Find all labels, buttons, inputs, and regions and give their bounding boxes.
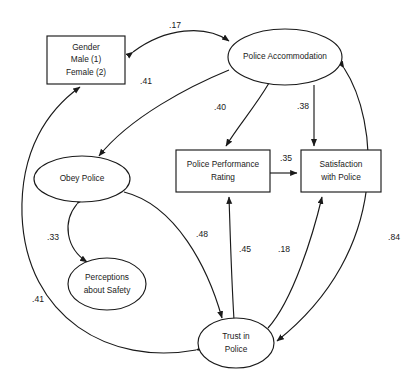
edge-accommodation-gender: [133, 31, 229, 52]
node-satisfaction-with-police[interactable]: Satisfaction with Police: [301, 150, 381, 192]
edge-accommodation-trust: [277, 68, 368, 341]
coefficient-accommodation-performance: .40: [214, 102, 226, 112]
node-obey-police-label: Obey Police: [60, 173, 105, 183]
coefficient-obey-perceptions: .33: [47, 232, 59, 242]
node-obey-police[interactable]: Obey Police: [34, 156, 130, 202]
node-gender-line-2: Female (2): [66, 67, 106, 77]
node-trust-in-police[interactable]: Trust in Police: [198, 318, 274, 368]
coefficient-accommodation-obey: .41: [140, 76, 152, 86]
coefficient-trust-gender: .41: [32, 294, 44, 304]
node-satisfaction-with-police-line-1: with Police: [320, 172, 361, 182]
edge-trust-satisfaction: [268, 197, 322, 328]
node-perceptions-about-safety-line-1: about Safety: [84, 285, 131, 295]
node-perceptions-about-safety-line-0: Perceptions: [85, 272, 129, 282]
node-trust-in-police-line-0: Trust in: [222, 331, 250, 341]
path-diagram: Gender Male (1) Female (2) Police Accomm…: [0, 0, 419, 386]
node-police-performance-rating-line-1: Rating: [211, 172, 235, 182]
node-police-accommodation[interactable]: Police Accommodation: [228, 29, 342, 85]
coefficient-performance-satisfaction: .35: [280, 153, 292, 163]
edge-obey-perceptions: [68, 204, 87, 262]
node-police-performance-rating-line-0: Police Performance: [187, 159, 260, 169]
node-police-accommodation-label: Police Accommodation: [243, 51, 327, 61]
coefficient-accommodation-gender: .17: [169, 20, 181, 30]
coefficient-accommodation-satisfaction: .38: [297, 101, 309, 111]
edge-accommodation-performance: [226, 83, 269, 146]
coefficient-accommodation-trust: .84: [388, 232, 400, 242]
coefficient-obey-trust: .48: [196, 229, 208, 239]
edge-trust-performance: [229, 197, 234, 320]
node-perceptions-about-safety[interactable]: Perceptions about Safety: [68, 258, 146, 310]
diagram-canvas: Gender Male (1) Female (2) Police Accomm…: [0, 0, 419, 386]
node-police-performance-rating[interactable]: Police Performance Rating: [176, 150, 270, 192]
node-trust-in-police-line-1: Police: [225, 344, 248, 354]
node-satisfaction-with-police-line-0: Satisfaction: [320, 159, 363, 169]
node-gender[interactable]: Gender Male (1) Female (2): [47, 36, 125, 84]
coefficient-trust-satisfaction: .18: [278, 244, 290, 254]
node-gender-line-0: Gender: [72, 42, 100, 52]
coefficient-trust-performance: .45: [239, 244, 251, 254]
node-gender-line-1: Male (1): [71, 54, 102, 64]
